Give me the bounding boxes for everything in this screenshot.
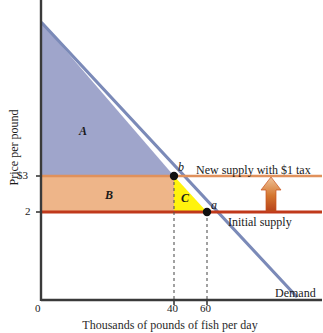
x-tick-label-0: 0 [35,302,41,314]
demand-label: Demand [275,286,316,301]
y-tick-label-3: $3 [17,169,28,181]
point-a-label: a [211,198,217,213]
y-tick-label-2: 2 [25,205,31,217]
point-b-marker [170,172,178,180]
tax-shift-arrow-icon [261,177,281,211]
point-b-label: b [178,160,184,175]
region-a-label: A [79,124,87,139]
x-tick-label-40: 40 [167,302,178,314]
x-axis-title: Thousands of pounds of fish per day [40,318,300,333]
new-supply-label: New supply with $1 tax [196,163,311,178]
initial-supply-label: Initial supply [228,215,292,230]
region-c-label: C [181,191,189,206]
region-b-label: B [105,188,113,203]
x-tick-label-60: 60 [200,302,211,314]
point-a-marker [203,208,211,216]
y-axis-title: Price per pound [7,96,22,200]
